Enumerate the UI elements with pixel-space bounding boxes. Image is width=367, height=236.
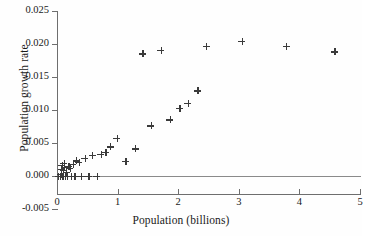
scatter-chart: Population growth rate Population (billi… xyxy=(0,0,362,236)
data-point-layer xyxy=(0,0,362,236)
